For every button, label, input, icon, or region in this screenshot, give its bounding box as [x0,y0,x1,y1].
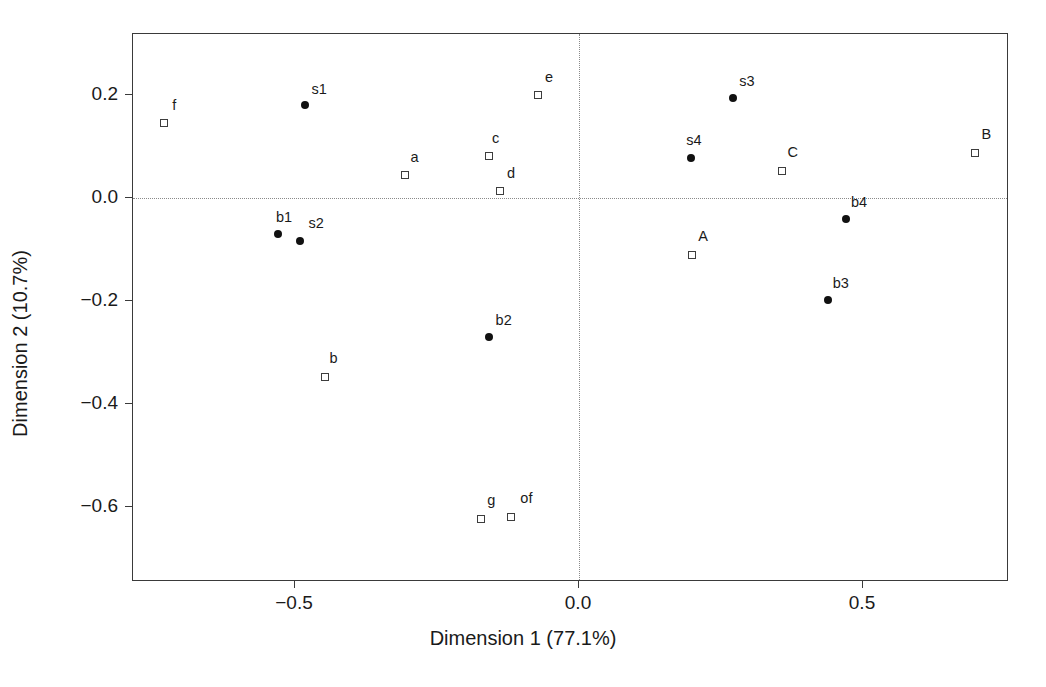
data-point-a [401,171,409,179]
data-point-A [688,251,696,259]
x-tick-label: 0.0 [565,592,591,614]
y-tick-label: −0.4 [80,392,118,414]
scatter-plot-figure: s1b1s2b2s3s4b4b3facdebgofACB −0.50.00.5 … [0,0,1046,687]
y-tick-mark [125,197,132,198]
data-point-g [477,515,485,523]
y-tick-label: 0.0 [92,186,118,208]
data-point-label-A: A [698,229,708,244]
data-point-label-s2: s2 [308,215,323,230]
plot-area: s1b1s2b2s3s4b4b3facdebgofACB [132,33,1008,581]
x-tick-mark [294,581,295,588]
x-tick-label: −0.5 [275,592,313,614]
data-point-label-c: c [492,131,499,146]
data-point-label-s4: s4 [686,133,701,148]
data-point-label-b1: b1 [276,210,292,225]
data-point-s4 [687,154,695,162]
data-point-s2 [296,237,304,245]
y-axis-label: Dimension 2 (10.7%) [0,0,40,687]
data-point-e [534,91,542,99]
data-point-c [485,152,493,160]
x-axis-label: Dimension 1 (77.1%) [0,627,1046,650]
data-point-b3 [824,296,832,304]
data-point-label-f: f [172,98,176,113]
data-point-label-a: a [411,150,419,165]
data-point-label-b3: b3 [833,276,849,291]
data-point-label-b2: b2 [496,313,512,328]
data-point-label-B: B [982,126,992,141]
y-tick-mark [125,506,132,507]
data-point-label-b: b [329,350,337,365]
data-point-label-of: of [520,491,532,506]
y-tick-label: −0.2 [80,289,118,311]
data-point-label-b4: b4 [851,195,867,210]
x-tick-mark [862,581,863,588]
data-point-label-s3: s3 [739,73,754,88]
data-point-label-C: C [788,144,798,159]
data-point-label-g: g [487,493,495,508]
data-point-s1 [301,101,309,109]
x-tick-label: 0.5 [849,592,875,614]
y-tick-mark [125,300,132,301]
y-tick-mark [125,403,132,404]
zero-reference-line-vertical [579,34,580,580]
data-point-B [971,149,979,157]
y-tick-label: 0.2 [92,83,118,105]
data-point-s3 [729,94,737,102]
y-tick-label: −0.6 [80,495,118,517]
y-tick-mark [125,94,132,95]
data-point-b1 [274,230,282,238]
data-point-b2 [485,333,493,341]
data-point-label-d: d [507,166,515,181]
data-point-f [160,119,168,127]
data-point-b [321,373,329,381]
data-point-label-s1: s1 [312,82,327,97]
x-tick-mark [578,581,579,588]
data-point-label-e: e [545,70,553,85]
data-point-C [778,167,786,175]
zero-reference-line-horizontal [133,198,1007,199]
data-point-b4 [842,215,850,223]
data-point-d [496,187,504,195]
data-point-of [507,513,515,521]
